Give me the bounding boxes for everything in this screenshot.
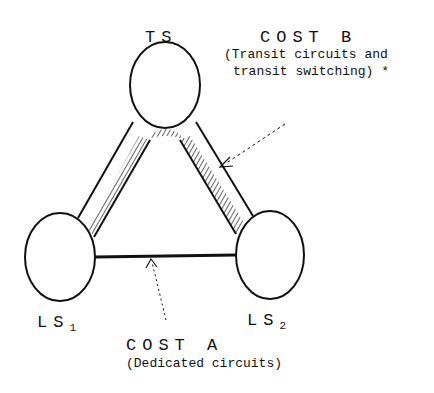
cost-b-line1: (Transit circuits and xyxy=(224,47,388,62)
arrow-cost-b xyxy=(220,124,285,167)
transit-band-left xyxy=(78,122,150,237)
node-ts-label: TS xyxy=(145,28,177,47)
ls2-subscript: 2 xyxy=(279,320,292,332)
transit-band-right xyxy=(180,122,253,234)
node-ls1-label: LS1 xyxy=(37,313,82,334)
node-ls2 xyxy=(236,211,304,299)
node-ls2-label: LS2 xyxy=(247,311,292,332)
node-ls1 xyxy=(25,213,95,301)
ls1-text: LS xyxy=(37,313,69,332)
cost-b-title: COST B xyxy=(260,28,357,47)
network-cost-diagram: TS COST B (Transit circuits and transit … xyxy=(0,0,434,393)
ls2-text: LS xyxy=(247,311,279,330)
cost-a-title: COST A xyxy=(126,336,223,355)
cost-b-line2: transit switching) * xyxy=(233,64,389,79)
ls1-subscript: 1 xyxy=(69,322,82,334)
transit-switching-hatch xyxy=(146,129,186,140)
node-ts xyxy=(130,42,200,128)
dedicated-circuit-line xyxy=(95,255,236,257)
cost-a-desc: (Dedicated circuits) xyxy=(126,356,282,371)
arrow-cost-a xyxy=(146,259,166,320)
